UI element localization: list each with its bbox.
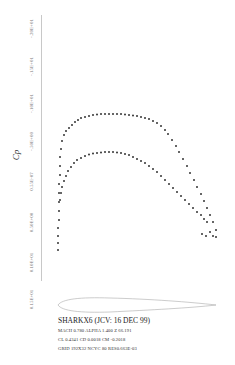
flow-conditions: MACH 0.780 ALPHA 1.400 Z 66.191	[58, 328, 132, 333]
grid-info: GRID 192X32 NCYC 80 RES0.663E-03	[58, 346, 137, 351]
chart-title: SHARKX6 (JCV: 16 DEC 99)	[58, 316, 150, 325]
force-coefficients: CL 0.4341 CD 0.0018 CM -0.2018	[58, 337, 125, 342]
lower-surface-points	[59, 151, 217, 238]
upper-surface-points	[57, 113, 217, 251]
cp-plot	[0, 0, 235, 365]
airfoil-outline	[58, 298, 216, 312]
